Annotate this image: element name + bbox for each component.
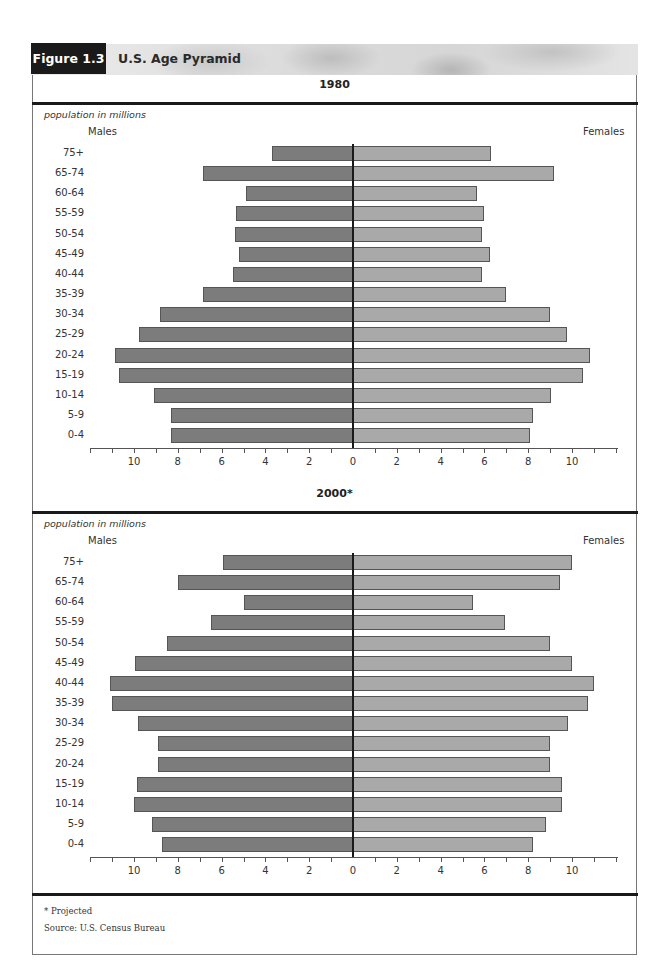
male-bar-20-24 [158,757,353,772]
x-axis-tick [419,448,420,453]
panel-title: 2000* [32,487,637,500]
age-group-label: 25-29 [42,328,84,339]
female-bar-10-14 [353,388,551,403]
units-label: population in millions [44,518,146,529]
female-bar-25-29 [353,327,567,342]
male-bar-10-14 [154,388,353,403]
age-group-label: 25-29 [42,737,84,748]
x-tick-label: 2 [299,456,319,467]
age-group-label: 60-64 [42,596,84,607]
x-tick-label: 2 [387,456,407,467]
x-axis-tick [572,857,573,862]
female-bar-55-59 [353,206,484,221]
x-axis-tick [244,857,245,862]
x-axis-tick [419,857,420,862]
x-axis-tick [309,857,310,862]
age-group-label: 45-49 [42,657,84,668]
x-tick-label: 0 [343,456,363,467]
x-axis-tick [550,448,551,453]
x-tick-label: 2 [299,865,319,876]
age-group-label: 10-14 [42,389,84,400]
male-bar-55-59 [211,615,353,630]
x-axis-tick [375,448,376,453]
age-group-label: 15-19 [42,369,84,380]
male-bar-30-34 [160,307,353,322]
x-tick-label: 6 [474,456,494,467]
age-group-label: 0-4 [42,838,84,849]
x-axis-tick [134,448,135,453]
male-bar-35-39 [112,696,353,711]
female-bar-0-4 [353,837,533,852]
x-tick-label: 4 [431,456,451,467]
male-bar-20-24 [115,348,353,363]
male-bar-0-4 [162,837,353,852]
female-bar-65-74 [353,575,560,590]
x-axis-tick [550,857,551,862]
x-tick-label: 6 [212,865,232,876]
male-bar-15-19 [137,777,353,792]
female-bar-75+ [353,146,491,161]
female-bar-30-34 [353,716,568,731]
female-bar-60-64 [353,595,473,610]
females-label: Females [583,535,624,546]
center-axis-line [352,144,354,449]
male-bar-40-44 [110,676,353,691]
x-tick-label: 10 [562,865,582,876]
x-axis-tick [441,448,442,453]
age-group-label: 35-39 [42,288,84,299]
x-axis-tick [506,448,507,453]
male-bar-5-9 [171,408,353,423]
female-bar-50-54 [353,227,482,242]
age-group-label: 65-74 [42,576,84,587]
male-bar-35-39 [203,287,353,302]
x-axis-tick [594,857,595,862]
female-bar-35-39 [353,287,506,302]
x-axis-tick [287,448,288,453]
x-axis-tick [528,857,529,862]
male-bar-10-14 [134,797,353,812]
age-group-label: 75+ [42,147,84,158]
x-axis-tick [331,857,332,862]
male-bar-65-74 [178,575,353,590]
source-note: Source: U.S. Census Bureau [44,923,165,933]
x-tick-label: 8 [518,456,538,467]
male-bar-5-9 [152,817,353,832]
panel-rule [32,511,638,514]
males-label: Males [88,535,117,546]
female-bar-35-39 [353,696,588,711]
female-bar-75+ [353,555,572,570]
x-axis-tick [265,448,266,453]
female-bar-30-34 [353,307,550,322]
age-group-label: 0-4 [42,429,84,440]
x-axis-tick [178,857,179,862]
x-axis-tick [528,448,529,453]
age-group-label: 15-19 [42,778,84,789]
x-axis-tick [594,448,595,453]
male-bar-15-19 [119,368,353,383]
age-group-label: 35-39 [42,697,84,708]
panel-rule [32,102,638,105]
x-axis-tick [484,857,485,862]
male-bar-60-64 [246,186,353,201]
female-bar-5-9 [353,817,546,832]
x-axis-tick [244,448,245,453]
x-tick-label: 8 [518,865,538,876]
x-tick-label: 8 [168,456,188,467]
age-group-label: 40-44 [42,268,84,279]
female-bar-15-19 [353,777,562,792]
x-tick-label: 10 [124,456,144,467]
female-bar-10-14 [353,797,562,812]
age-group-label: 50-54 [42,228,84,239]
x-axis-tick [200,857,201,862]
age-group-label: 40-44 [42,677,84,688]
age-group-label: 20-24 [42,758,84,769]
males-label: Males [88,126,117,137]
male-bar-75+ [223,555,353,570]
female-bar-25-29 [353,736,550,751]
age-group-label: 65-74 [42,167,84,178]
x-axis-tick [222,857,223,862]
female-bar-0-4 [353,428,530,443]
x-axis-tick [331,448,332,453]
x-axis-tick [112,857,113,862]
age-group-label: 20-24 [42,349,84,360]
